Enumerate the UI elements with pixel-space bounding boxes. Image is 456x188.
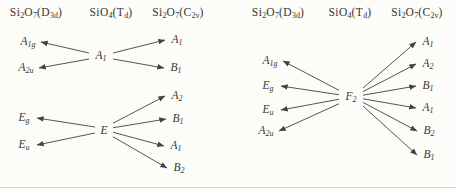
header-text: ) bbox=[439, 6, 443, 18]
c2v-species-label: B1 bbox=[423, 148, 434, 163]
header-text: (T bbox=[352, 6, 364, 18]
species-subscript: 2 bbox=[431, 129, 435, 138]
species-letter: B bbox=[422, 79, 429, 91]
species-subscript: 1 bbox=[430, 84, 434, 93]
c2v-species-label: A1 bbox=[422, 101, 433, 116]
header-subscript: 3d bbox=[292, 11, 300, 20]
d3d-species-label: A1g bbox=[262, 54, 277, 69]
species-letter: B bbox=[423, 124, 430, 136]
species-subscript: 1 bbox=[430, 106, 434, 115]
c2v-species-label: A2 bbox=[422, 57, 433, 72]
panel-bent-bridge: Si2O7(D3d)SiO4(Td)Si2O7(C2v)F2A1gEgEuA2u… bbox=[0, 0, 456, 188]
species-letter: A bbox=[258, 124, 265, 136]
header-text: SiO bbox=[329, 6, 348, 18]
species-subscript: 1 bbox=[431, 153, 435, 162]
td-species-label: F2 bbox=[345, 90, 356, 105]
species-subscript: 2 bbox=[430, 62, 434, 71]
point-group-header: SiO4(Td) bbox=[329, 6, 372, 21]
species-letter: A bbox=[422, 35, 429, 47]
header-text: (D bbox=[279, 6, 292, 18]
species-letter: B bbox=[423, 148, 430, 160]
species-subscript: 2 bbox=[353, 95, 357, 104]
d3d-species-label: Eg bbox=[262, 79, 273, 94]
point-group-header: Si2O7(D3d) bbox=[252, 6, 304, 21]
point-group-header: Si2O7(C2v) bbox=[391, 6, 443, 21]
species-letter: A bbox=[422, 101, 429, 113]
d3d-species-label: A2u bbox=[258, 124, 273, 139]
header-text: Si bbox=[391, 6, 401, 18]
species-subscript: u bbox=[270, 108, 274, 117]
species-subscript: 1 bbox=[430, 40, 434, 49]
species-subscript: 1g bbox=[270, 59, 278, 68]
species-subscript: g bbox=[270, 84, 274, 93]
header-text: O bbox=[266, 6, 275, 18]
header-text: (C bbox=[418, 6, 430, 18]
header-text: ) bbox=[300, 6, 304, 18]
d3d-species-label: Eu bbox=[262, 103, 273, 118]
species-letter: A bbox=[422, 57, 429, 69]
page-edge-line bbox=[0, 187, 456, 188]
header-text: O bbox=[406, 6, 415, 18]
species-subscript: 2u bbox=[266, 129, 274, 138]
species-letter: E bbox=[262, 79, 269, 91]
c2v-species-label: B1 bbox=[422, 79, 433, 94]
c2v-species-label: A1 bbox=[422, 35, 433, 50]
header-text: Si bbox=[252, 6, 262, 18]
header-text: ) bbox=[367, 6, 371, 18]
species-letter: E bbox=[262, 103, 269, 115]
correlation-diagram: Si2O7(D3d)SiO4(Td)Si2O7(C2v)A1A1gA2uA1B1… bbox=[0, 0, 456, 188]
species-letter: A bbox=[262, 54, 269, 66]
species-letter: F bbox=[345, 90, 352, 102]
c2v-species-label: B2 bbox=[423, 124, 434, 139]
